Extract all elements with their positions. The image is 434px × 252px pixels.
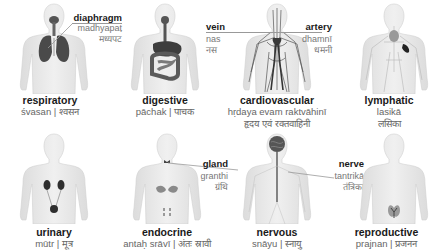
system-devanagari-cardiovascular: हृदय एवं रक्तवाहिनी (217, 118, 337, 130)
diaphragm-name: diaphragm (64, 12, 122, 23)
system-caption-respiratory: śvasan | श्वसन (0, 106, 100, 118)
lymphatic-figure (354, 2, 434, 94)
caption-digestive: digestive pāchak | पाचक (115, 94, 215, 118)
system-name-lymphatic: lymphatic (344, 94, 434, 106)
system-name-nervous: nervous (227, 226, 327, 238)
system-name-endocrine: endocrine (107, 226, 227, 238)
system-caption-urinary: mūtr | मूत्र (4, 238, 104, 250)
gland-devanagari: ग्रंथि (178, 182, 228, 193)
diaphragm-translit: madhyapaṭ (64, 23, 122, 34)
system-name-reproductive: reproductive (339, 226, 434, 238)
artery-translit: dhamnī (282, 34, 332, 45)
artery-devanagari: धमनी (282, 45, 332, 56)
system-name-digestive: digestive (115, 94, 215, 106)
system-caption-digestive: pāchak | पाचक (115, 106, 215, 118)
gland-translit: granthi (178, 171, 228, 182)
caption-nervous: nervous snāyu | स्नायु (227, 226, 327, 250)
diaphragm-label: diaphragm madhyapaṭ मध्यपट (64, 12, 122, 45)
system-caption-endocrine: antaḥ srāvī | अंतः स्रावी (107, 238, 227, 250)
caption-lymphatic: lymphatic lasikā लसिका (344, 94, 434, 130)
system-caption-nervous: snāyu | स्नायु (227, 238, 327, 250)
caption-reproductive: reproductive prajnan | प्रजनन (339, 226, 434, 250)
urinary-figure (14, 132, 94, 224)
caption-endocrine: endocrine antaḥ srāvī | अंतः स्रावी (107, 226, 227, 250)
system-name-respiratory: respiratory (0, 94, 100, 106)
caption-cardiovascular: cardiovascular hṛdaya evam raktvāhinī हृ… (217, 94, 337, 130)
system-devanagari-lymphatic: लसिका (344, 118, 434, 130)
vein-translit: nas (206, 34, 225, 45)
gland-name: gland (178, 158, 228, 169)
caption-respiratory: respiratory śvasan | श्वसन (0, 94, 100, 118)
system-name-urinary: urinary (4, 226, 104, 238)
vein-devanagari: नस (206, 45, 225, 56)
artery-name: artery (282, 21, 332, 32)
system-name-cardiovascular: cardiovascular (217, 94, 337, 106)
diaphragm-devanagari: मध्यपट (64, 34, 122, 45)
system-caption-reproductive: prajnan | प्रजनन (339, 238, 434, 250)
digestive-figure (125, 2, 205, 94)
gland-label: gland granthi ग्रंथि (178, 158, 228, 193)
caption-urinary: urinary mūtr | मूत्र (4, 226, 104, 250)
system-translit-cardiovascular: hṛdaya evam raktvāhinī (217, 106, 337, 118)
reproductive-figure (354, 132, 434, 224)
vein-name: vein (206, 21, 225, 32)
vein-label: vein nas नस (206, 21, 225, 56)
artery-label: artery dhamnī धमनी (282, 21, 332, 56)
system-translit-lymphatic: lasikā (344, 106, 434, 118)
